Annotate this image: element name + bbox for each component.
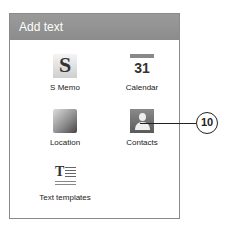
item-label: S Memo [30,83,100,92]
item-label: Text templates [30,193,100,202]
callout-number: 10 [196,112,218,134]
item-label: Location [30,138,100,147]
location-map-icon [53,109,77,133]
s-memo-icon: S [53,54,77,78]
contacts-icon [130,109,154,133]
calendar-icon: 31 [130,54,154,78]
item-s-memo[interactable]: S S Memo [30,54,100,92]
text-templates-icon: T [53,164,77,188]
item-text-templates[interactable]: T Text templates [30,164,100,202]
callout-line [140,123,196,124]
item-label: Contacts [107,138,177,147]
item-location[interactable]: Location [30,109,100,147]
item-label: Calendar [107,83,177,92]
item-calendar[interactable]: 31 Calendar [107,54,177,92]
dialog-title: Add text [10,14,179,40]
item-contacts[interactable]: Contacts [107,109,177,147]
add-text-dialog: Add text S S Memo 31 Calendar Location C… [9,13,180,219]
